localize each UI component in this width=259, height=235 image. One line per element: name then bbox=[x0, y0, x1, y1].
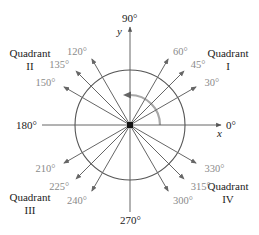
angle-label-330: 330° bbox=[205, 163, 225, 174]
quadrant-3-numeral: III bbox=[25, 204, 36, 216]
quadrant-1-numeral: I bbox=[226, 60, 230, 72]
angle-label-300: 300° bbox=[173, 195, 193, 206]
quadrant-4-numeral: IV bbox=[222, 193, 234, 205]
label-270-deg: 270° bbox=[120, 214, 141, 226]
angle-label-210: 210° bbox=[36, 163, 56, 174]
angle-label-135: 135° bbox=[49, 59, 69, 70]
y-axis-label: y bbox=[116, 25, 122, 37]
x-axis-label: x bbox=[216, 127, 222, 139]
label-180-deg: 180° bbox=[16, 119, 37, 131]
quadrant-3-label: Quadrant bbox=[10, 191, 51, 203]
angle-label-60: 60° bbox=[173, 46, 188, 57]
quadrant-1-label: Quadrant bbox=[208, 47, 249, 59]
angle-label-150: 150° bbox=[36, 77, 56, 88]
quadrant-2-label: Quadrant bbox=[10, 47, 51, 59]
quadrant-2-numeral: II bbox=[26, 60, 34, 72]
angle-label-120: 120° bbox=[67, 46, 87, 57]
label-90-deg: 90° bbox=[122, 12, 137, 24]
angle-label-225: 225° bbox=[49, 181, 69, 192]
quadrant-4-label: Quadrant bbox=[208, 180, 249, 192]
unit-circle-diagram: 90° y 0° x 180° 270° Quadrant I Quadrant… bbox=[0, 0, 259, 235]
angle-label-240: 240° bbox=[67, 195, 87, 206]
angle-label-315: 315° bbox=[191, 181, 211, 192]
origin-point bbox=[127, 122, 133, 128]
angle-label-30: 30° bbox=[205, 77, 220, 88]
angle-label-45: 45° bbox=[191, 59, 206, 70]
label-0-deg: 0° bbox=[226, 119, 236, 131]
